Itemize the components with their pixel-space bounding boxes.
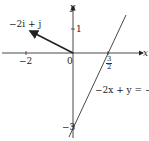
line-label: −2x + y = −3 (95, 86, 149, 95)
tick-label-frac-den: 2 (107, 64, 111, 71)
tick-label-neg2: −2 (19, 57, 32, 66)
y-axis-label: y (70, 3, 75, 12)
tick-label-1: 1 (76, 25, 82, 34)
tick-label-frac-num: 3 (107, 56, 111, 63)
vector-arrow (30, 31, 73, 53)
tick-label-neg3: −3 (62, 123, 75, 132)
x-axis-label: x (143, 49, 148, 58)
origin-label: 0 (67, 57, 73, 66)
vector-label: −2i + j (9, 20, 41, 29)
